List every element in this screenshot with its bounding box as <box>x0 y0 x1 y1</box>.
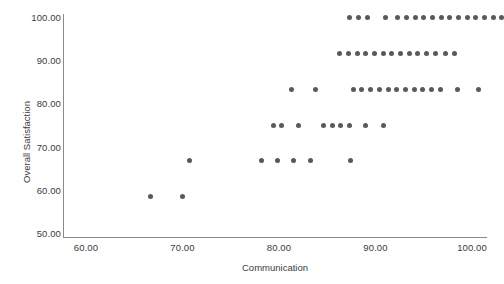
scatter-point <box>465 15 470 20</box>
scatter-point <box>429 87 434 92</box>
scatter-point <box>289 87 294 92</box>
scatter-point <box>330 123 335 128</box>
scatter-point <box>359 87 364 92</box>
scatter-point <box>180 194 185 199</box>
scatter-point <box>430 15 435 20</box>
scatter-point <box>407 51 412 56</box>
scatter-point <box>363 123 368 128</box>
scatter-point <box>296 123 301 128</box>
scatter-point <box>347 123 352 128</box>
scatter-point <box>420 87 425 92</box>
scatter-point <box>499 15 504 20</box>
scatter-point <box>413 15 418 20</box>
scatter-point <box>348 158 353 163</box>
scatter-point <box>368 87 373 92</box>
scatter-point <box>473 15 478 20</box>
scatter-point <box>491 15 496 20</box>
scatter-point <box>372 51 377 56</box>
scatter-point <box>455 87 460 92</box>
scatter-point <box>259 158 264 163</box>
scatter-point <box>395 15 400 20</box>
scatter-point <box>337 51 342 56</box>
scatter-point <box>412 87 417 92</box>
scatter-point <box>275 158 280 163</box>
scatter-point <box>433 51 438 56</box>
scatter-point <box>351 87 356 92</box>
scatter-point <box>386 87 391 92</box>
scatter-point <box>447 15 452 20</box>
scatter-point <box>308 158 313 163</box>
scatter-point <box>291 158 296 163</box>
scatter-point <box>148 194 153 199</box>
scatter-point <box>452 51 457 56</box>
scatter-point <box>355 51 360 56</box>
scatter-point <box>363 51 368 56</box>
scatter-point <box>383 15 388 20</box>
scatter-point <box>421 15 426 20</box>
scatter-point <box>313 87 318 92</box>
scatter-point <box>398 51 403 56</box>
scatter-point <box>482 15 487 20</box>
scatter-point <box>415 51 420 56</box>
scatter-point <box>381 51 386 56</box>
scatter-point <box>456 15 461 20</box>
scatter-point <box>394 87 399 92</box>
scatter-point <box>271 123 276 128</box>
scatter-point <box>279 123 284 128</box>
scatter-point <box>347 15 352 20</box>
scatter-point <box>365 15 370 20</box>
scatter-point <box>443 51 448 56</box>
scatter-point <box>424 51 429 56</box>
scatter-point <box>389 51 394 56</box>
scatter-point <box>356 15 361 20</box>
scatter-point <box>381 123 386 128</box>
scatter-point <box>403 87 408 92</box>
scatter-point <box>476 87 481 92</box>
scatter-point <box>338 123 343 128</box>
scatter-point <box>404 15 409 20</box>
scatter-point <box>187 158 192 163</box>
scatter-point <box>346 51 351 56</box>
scatter-point <box>377 87 382 92</box>
scatter-point <box>321 123 326 128</box>
scatter-point <box>439 15 444 20</box>
scatter-point <box>438 87 443 92</box>
